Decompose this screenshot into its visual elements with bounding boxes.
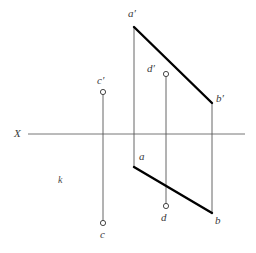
a-prime-b-prime-segment xyxy=(134,27,212,103)
c-point-marker xyxy=(100,220,105,225)
d-point-marker xyxy=(163,203,168,208)
plane-label-k: k xyxy=(58,175,62,185)
point-label-c: c xyxy=(100,229,105,240)
c-prime-point-marker xyxy=(100,89,105,94)
point-label-c-prime: c′ xyxy=(97,75,104,86)
point-label-a-prime: a′ xyxy=(128,8,136,19)
point-label-d-prime: d′ xyxy=(147,63,155,74)
point-label-b: b xyxy=(215,215,221,226)
point-label-a: a xyxy=(139,151,145,162)
point-label-b-prime: b′ xyxy=(216,93,224,104)
x-axis-label: X xyxy=(14,128,21,139)
d-prime-point-marker xyxy=(163,71,168,76)
a-b-segment xyxy=(134,167,212,213)
point-label-d: d xyxy=(161,212,167,223)
figure-canvas: X k a′ b′ a b c′ c d′ d xyxy=(0,0,256,253)
